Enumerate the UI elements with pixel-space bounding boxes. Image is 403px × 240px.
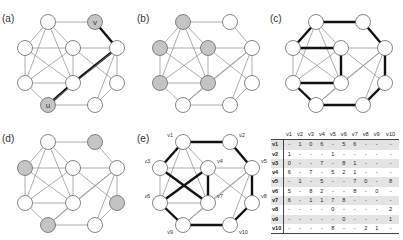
node	[41, 15, 56, 30]
table-cell: -	[349, 150, 360, 159]
node	[201, 196, 216, 211]
node	[88, 98, 103, 113]
table-cell: -	[360, 150, 371, 159]
table-row: v1-106-56---	[271, 140, 399, 150]
table-cell: -	[382, 159, 399, 168]
graph-panel-e: (e)v1v2v3v4v5v6v7v8v9v10	[145, 125, 280, 240]
table-cell: -	[327, 187, 338, 196]
graph-drawing	[145, 5, 280, 125]
table-cell: -	[327, 140, 338, 150]
table-row: v46-7-521---	[271, 168, 399, 177]
table-cell: -	[316, 168, 327, 177]
table-cell: -	[294, 215, 305, 224]
table-cell: -	[382, 168, 399, 177]
column-header: v6	[338, 130, 349, 140]
table-cell: 1	[349, 168, 360, 177]
vertex-label: v1	[167, 132, 173, 138]
table-cell: -	[316, 224, 327, 234]
table-cell: -	[284, 205, 295, 214]
node	[88, 218, 103, 233]
table-cell: 6	[349, 140, 360, 150]
node	[66, 76, 81, 91]
table-cell: -	[294, 205, 305, 214]
row-header: v5	[271, 177, 284, 186]
node	[356, 98, 371, 113]
graph-panel-c: (c)	[278, 5, 403, 125]
table-cell: -	[305, 224, 316, 234]
table-cell: -	[305, 150, 316, 159]
table-cell: 1	[305, 196, 316, 205]
highlighted-node	[201, 76, 216, 91]
highlighted-node	[201, 41, 216, 56]
node	[334, 41, 349, 56]
edge	[48, 168, 117, 225]
table-row: v8----0----2	[271, 205, 399, 214]
table-cell: 7	[349, 177, 360, 186]
highlighted-node	[18, 161, 33, 176]
table-cell: 7	[327, 196, 338, 205]
table-cell: -	[349, 224, 360, 234]
table-cell: -	[371, 215, 382, 224]
row-header: v10	[271, 224, 284, 234]
table-cell: -	[327, 177, 338, 186]
graph-drawing	[10, 125, 145, 240]
node	[378, 41, 393, 56]
table-cell: 1	[327, 150, 338, 159]
table-cell: 5	[338, 140, 349, 150]
node	[223, 98, 238, 113]
table-cell: 8	[305, 187, 316, 196]
node	[18, 41, 33, 56]
table-cell: 5	[284, 187, 295, 196]
vertex-label: v7	[217, 193, 223, 199]
row-header: v1	[271, 140, 284, 150]
table-cell: -	[360, 187, 371, 196]
table-cell: 1	[382, 215, 399, 224]
table-cell: 2	[382, 205, 399, 214]
table-header-row: v1v2v3v4v5v6v7v8v9v10	[271, 130, 399, 140]
column-header: v3	[305, 130, 316, 140]
table-cell: -	[327, 215, 338, 224]
column-header: v1	[284, 130, 295, 140]
table-cell: 6	[284, 168, 295, 177]
node	[66, 41, 81, 56]
table-cell: -	[371, 196, 382, 205]
table-cell: 6	[284, 196, 295, 205]
table-row: v9-----0---1	[271, 215, 399, 224]
table-cell: -	[338, 150, 349, 159]
node	[223, 135, 238, 150]
table-cell: -	[360, 168, 371, 177]
table-cell: -	[294, 187, 305, 196]
node-label: u	[46, 101, 50, 110]
table-cell: 6	[316, 140, 327, 150]
graph-drawing	[278, 5, 403, 125]
table-cell: -	[382, 196, 399, 205]
node	[286, 41, 301, 56]
table-cell: -	[371, 159, 382, 168]
table-cell: -	[338, 205, 349, 214]
node	[110, 41, 125, 56]
node	[18, 76, 33, 91]
table-cell: 8	[382, 177, 399, 186]
table-cell: 5	[316, 177, 327, 186]
table-cell: -	[294, 150, 305, 159]
row-header: v6	[271, 187, 284, 196]
edge	[316, 48, 385, 105]
column-header: v4	[316, 130, 327, 140]
table-cell: -	[327, 159, 338, 168]
table-cell: 1	[294, 140, 305, 150]
table-cell: -	[316, 215, 327, 224]
graph-panel-d: (d)	[10, 125, 145, 240]
graph-drawing: vu	[10, 5, 145, 125]
table-cell: -	[305, 177, 316, 186]
column-header: v5	[327, 130, 338, 140]
vertex-label: v10	[239, 229, 248, 235]
vertex-label: v4	[217, 158, 223, 164]
node	[18, 196, 33, 211]
table-row: v10----8--21-	[271, 224, 399, 234]
graph-panel-a: (a)vu	[10, 5, 145, 125]
node	[176, 98, 191, 113]
row-header: v2	[271, 150, 284, 159]
table-cell: 0	[305, 140, 316, 150]
table-cell: 0	[371, 187, 382, 196]
table-cell: -	[360, 205, 371, 214]
